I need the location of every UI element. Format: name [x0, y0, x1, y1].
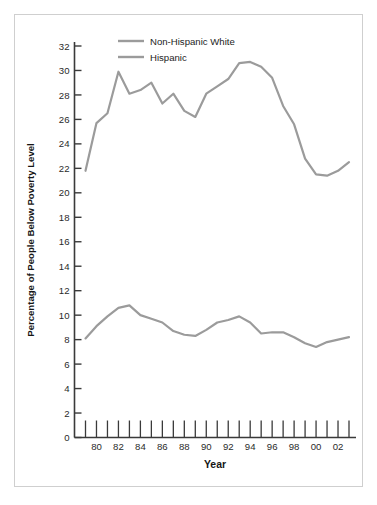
x-tick-label: 00 — [311, 441, 322, 452]
y-tick-label: 22 — [59, 163, 70, 174]
y-tick-label: 16 — [59, 236, 70, 247]
y-tick-label: 2 — [64, 408, 69, 419]
y-tick-label: 28 — [59, 90, 70, 101]
x-tick-label: 02 — [333, 441, 344, 452]
y-tick-label: 10 — [59, 310, 70, 321]
data-series-group — [86, 62, 350, 347]
y-tick-label: 20 — [59, 187, 70, 198]
x-tick-label: 94 — [245, 441, 256, 452]
series-line-hispanic — [86, 62, 350, 176]
axes-group — [75, 42, 357, 438]
series-line-non-hispanic-white — [86, 305, 350, 347]
x-tick-label: 80 — [91, 441, 102, 452]
x-tick-label: 98 — [289, 441, 300, 452]
y-tick-label-group: 02468101214161820222426283032 — [59, 41, 70, 444]
x-tick-label: 90 — [201, 441, 212, 452]
chart-figure: 02468101214161820222426283032 8082848688… — [0, 0, 377, 505]
x-tick-label: 84 — [135, 441, 146, 452]
chart-plot-area: 02468101214161820222426283032 8082848688… — [0, 0, 377, 505]
x-tick-label-group: 808284868890929496980002 — [91, 441, 343, 452]
x-tick-label: 96 — [267, 441, 278, 452]
x-tick-label: 88 — [179, 441, 190, 452]
legend-label: Hispanic — [150, 52, 187, 63]
y-tick-label: 8 — [64, 334, 69, 345]
y-tick-group — [75, 46, 82, 438]
legend-label: Non-Hispanic White — [150, 36, 235, 47]
x-tick-group — [86, 421, 350, 438]
y-tick-label: 18 — [59, 212, 70, 223]
y-tick-label: 24 — [59, 138, 70, 149]
y-tick-label: 4 — [64, 383, 70, 394]
x-tick-label: 92 — [223, 441, 234, 452]
x-tick-label: 86 — [157, 441, 168, 452]
x-tick-label: 82 — [113, 441, 124, 452]
y-tick-label: 26 — [59, 114, 70, 125]
y-tick-label: 14 — [59, 261, 70, 272]
y-tick-label: 6 — [64, 359, 69, 370]
y-tick-label: 12 — [59, 285, 70, 296]
chart-legend: Non-Hispanic WhiteHispanic — [118, 36, 235, 63]
x-axis-title: Year — [204, 458, 226, 470]
y-axis-title: Percentage of People Below Poverty Level — [25, 143, 36, 337]
y-tick-label: 0 — [64, 432, 69, 443]
y-tick-label: 32 — [59, 41, 70, 52]
y-tick-label: 30 — [59, 65, 70, 76]
